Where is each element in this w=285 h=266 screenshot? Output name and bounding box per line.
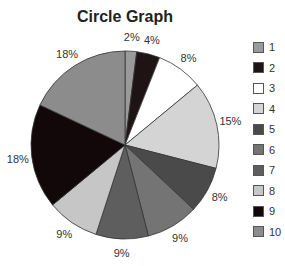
legend-item: 9 bbox=[253, 204, 275, 218]
legend-label: 8 bbox=[269, 185, 275, 197]
legend-label: 10 bbox=[269, 226, 281, 238]
pie-chart bbox=[0, 0, 285, 266]
legend-item: 10 bbox=[253, 225, 281, 239]
legend-label: 1 bbox=[269, 41, 275, 53]
legend-swatch bbox=[253, 185, 264, 196]
legend-swatch bbox=[253, 165, 264, 176]
legend-swatch bbox=[253, 124, 264, 135]
slice-label: 18% bbox=[56, 48, 78, 60]
legend-item: 8 bbox=[253, 184, 275, 198]
legend-label: 2 bbox=[269, 62, 275, 74]
legend-label: 7 bbox=[269, 164, 275, 176]
legend-swatch bbox=[253, 83, 264, 94]
legend-label: 6 bbox=[269, 144, 275, 156]
legend-swatch bbox=[253, 103, 264, 114]
legend-item: 1 bbox=[253, 40, 275, 54]
slice-label: 8% bbox=[212, 191, 228, 203]
legend-swatch bbox=[253, 206, 264, 217]
legend-label: 4 bbox=[269, 103, 275, 115]
slice-label: 9% bbox=[172, 232, 188, 244]
legend-label: 5 bbox=[269, 123, 275, 135]
slice-label: 9% bbox=[56, 228, 72, 240]
legend-swatch bbox=[253, 144, 264, 155]
legend-item: 6 bbox=[253, 143, 275, 157]
slice-label: 9% bbox=[114, 247, 130, 259]
legend-label: 3 bbox=[269, 82, 275, 94]
slice-label: 15% bbox=[219, 115, 241, 127]
legend-swatch bbox=[253, 62, 264, 73]
slice-label: 8% bbox=[181, 52, 197, 64]
legend-swatch bbox=[253, 226, 264, 237]
slice-label: 18% bbox=[7, 153, 29, 165]
legend-label: 9 bbox=[269, 205, 275, 217]
legend-item: 2 bbox=[253, 61, 275, 75]
legend-item: 7 bbox=[253, 163, 275, 177]
legend-item: 5 bbox=[253, 122, 275, 136]
legend-item: 4 bbox=[253, 102, 275, 116]
slice-label: 2% bbox=[124, 31, 140, 43]
slice-label: 4% bbox=[144, 34, 160, 46]
legend-item: 3 bbox=[253, 81, 275, 95]
legend-swatch bbox=[253, 42, 264, 53]
